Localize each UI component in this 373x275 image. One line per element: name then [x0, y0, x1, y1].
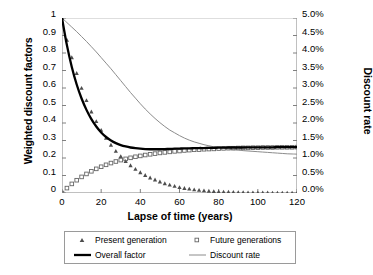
- y-right-tick-2.5%: 2.5%: [302, 97, 324, 107]
- future-generations-marker: [168, 150, 172, 154]
- legend-item[interactable]: Discount rate: [180, 248, 295, 264]
- y-right-tick-1.5%: 1.5%: [302, 132, 324, 142]
- present-generation-marker: [158, 180, 162, 184]
- thick-line-swatch: [71, 250, 93, 260]
- future-generations-marker: [104, 163, 108, 167]
- plot-svg: [62, 18, 297, 193]
- y-left-tick-0.8: 0.8: [43, 44, 56, 54]
- present-generation-marker: [148, 176, 152, 180]
- y-left-tick-0.9: 0.9: [43, 27, 56, 37]
- present-generation-marker: [177, 185, 181, 189]
- future-generations-marker: [134, 155, 138, 159]
- y-left-tick-0.6: 0.6: [43, 79, 56, 89]
- future-generations-marker: [85, 172, 89, 176]
- y-right-tick-3.5%: 3.5%: [302, 62, 324, 72]
- y-left-tick-0.2: 0.2: [43, 149, 56, 159]
- present-generation-marker: [133, 167, 137, 171]
- future-generations-marker: [153, 152, 157, 156]
- future-generations-marker: [143, 153, 147, 157]
- legend-label: Overall factor: [95, 250, 146, 260]
- y-left-tick-0.5: 0.5: [43, 97, 56, 107]
- y-right-tick-3.0%: 3.0%: [302, 79, 324, 89]
- present-generation-marker: [75, 71, 79, 75]
- legend-item[interactable]: Present generation: [65, 232, 180, 248]
- future-generations-marker: [114, 160, 118, 164]
- present-generation-marker: [119, 154, 123, 158]
- present-generation-marker: [143, 173, 147, 177]
- present-generation-marker: [221, 190, 225, 193]
- future-generations-marker: [80, 175, 84, 179]
- present-generation-marker: [197, 188, 201, 192]
- square-marker: [186, 235, 208, 245]
- present-generation-marker: [173, 184, 177, 188]
- future-generations-marker: [119, 158, 123, 162]
- triangle-marker: [71, 235, 93, 245]
- future-generations-marker: [94, 167, 98, 171]
- future-generations-marker: [75, 178, 79, 182]
- chart-container: Weighted discount factors Discount rate …: [0, 0, 373, 275]
- y-left-tick-1: 1: [51, 9, 56, 19]
- y-right-tick-0.5%: 0.5%: [302, 167, 324, 177]
- legend-label: Present generation: [95, 235, 167, 245]
- future-generations-marker: [70, 182, 74, 186]
- present-generation-marker: [128, 163, 132, 167]
- x-tick-80: 80: [213, 196, 224, 207]
- future-generations-marker: [173, 150, 177, 154]
- x-tick-40: 40: [135, 196, 146, 207]
- present-generation-marker: [138, 170, 142, 174]
- y-axis-right-title: Discount rate: [362, 11, 373, 191]
- y-axis-left-title: Weighted discount factors: [22, 11, 34, 191]
- future-generations-marker: [163, 151, 167, 155]
- y-right-tick-4.5%: 4.5%: [302, 27, 324, 37]
- y-right-tick-5.0%: 5.0%: [302, 9, 324, 19]
- series-discount-rate: [62, 18, 297, 154]
- discount-rate-line: [62, 18, 297, 154]
- present-generation-marker: [109, 143, 113, 147]
- future-generations-marker: [139, 154, 143, 158]
- y-left-tick-0: 0: [51, 184, 56, 194]
- future-generations-marker: [99, 165, 103, 169]
- present-generation-marker: [217, 190, 221, 194]
- y-right-tick-0.0%: 0.0%: [302, 184, 324, 194]
- present-generation-marker: [79, 86, 83, 90]
- future-generations-marker: [158, 151, 162, 155]
- present-generation-marker: [207, 189, 211, 193]
- overall-factor-line: [62, 18, 297, 149]
- future-generations-marker: [148, 153, 152, 157]
- legend-item[interactable]: Future generations: [180, 232, 295, 248]
- legend-label: Discount rate: [210, 250, 260, 260]
- legend-item[interactable]: Overall factor: [65, 248, 180, 264]
- plot-area: [62, 18, 297, 193]
- present-generation-marker: [168, 183, 172, 187]
- y-left-tick-0.4: 0.4: [43, 114, 56, 124]
- y-right-tick-1.0%: 1.0%: [302, 149, 324, 159]
- x-axis-title: Lapse of time (years): [62, 210, 298, 222]
- present-generation-marker: [89, 110, 93, 114]
- thin-line-swatch: [186, 250, 208, 260]
- x-tick-100: 100: [250, 196, 266, 207]
- y-right-tick-4.0%: 4.0%: [302, 44, 324, 54]
- present-generation-marker: [202, 188, 206, 192]
- present-generation-marker: [153, 178, 157, 182]
- present-generation-marker: [187, 187, 191, 191]
- x-tick-0: 0: [59, 196, 64, 207]
- future-generations-marker: [90, 170, 94, 174]
- chart-legend: Present generationFuture generationsOver…: [64, 231, 296, 264]
- x-tick-120: 120: [289, 196, 305, 207]
- present-generation-marker: [182, 186, 186, 190]
- x-tick-20: 20: [96, 196, 107, 207]
- present-generation-marker: [163, 181, 167, 185]
- y-left-tick-0.3: 0.3: [43, 132, 56, 142]
- future-generations-marker: [65, 186, 69, 190]
- x-tick-60: 60: [174, 196, 185, 207]
- present-generation-marker: [114, 149, 118, 153]
- legend-label: Future generations: [210, 235, 281, 245]
- series-overall-factor: [62, 18, 297, 149]
- present-generation-marker: [84, 98, 88, 102]
- y-right-tick-2.0%: 2.0%: [302, 114, 324, 124]
- future-generations-marker: [109, 161, 113, 165]
- present-generation-marker: [192, 187, 196, 191]
- y-left-tick-0.7: 0.7: [43, 62, 56, 72]
- y-left-tick-0.1: 0.1: [43, 167, 56, 177]
- future-generations-marker: [129, 156, 133, 160]
